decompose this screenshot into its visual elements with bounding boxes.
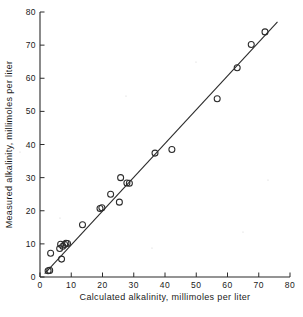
y-tick-label: 80 [26, 7, 36, 17]
y-tick-label: 50 [26, 106, 36, 116]
x-tick-label: 30 [129, 280, 139, 290]
x-tick-label: 80 [285, 280, 295, 290]
scan-speck [19, 151, 20, 152]
scan-speck [151, 247, 152, 248]
scan-speck [59, 217, 60, 218]
y-axis-title: Measured alkalinity, millimoles per lite… [4, 61, 14, 229]
scan-speck [195, 61, 196, 62]
y-tick-label: 70 [26, 40, 36, 50]
x-tick-label: 70 [254, 280, 264, 290]
x-axis-title: Calculated alkalinity, millimoles per li… [80, 292, 251, 302]
y-tick-label: 10 [26, 239, 36, 249]
y-tick-label: 20 [26, 206, 36, 216]
x-tick-label: 10 [66, 280, 76, 290]
y-tick-label: 30 [26, 173, 36, 183]
x-tick-label: 50 [191, 280, 201, 290]
x-tick-label: 20 [97, 280, 107, 290]
x-tick-label: 0 [37, 280, 42, 290]
x-tick-label: 40 [160, 280, 170, 290]
scan-speck [125, 95, 126, 96]
y-tick-label: 60 [26, 73, 36, 83]
y-tick-label: 40 [26, 140, 36, 150]
scatter-plot: 01020304050607080 01020304050607080 Calc… [0, 0, 303, 317]
scan-speck [267, 179, 268, 180]
figure-container: 01020304050607080 01020304050607080 Calc… [0, 0, 303, 317]
scan-speck [242, 231, 243, 232]
x-tick-label: 60 [222, 280, 232, 290]
y-tick-label: 0 [31, 272, 36, 282]
